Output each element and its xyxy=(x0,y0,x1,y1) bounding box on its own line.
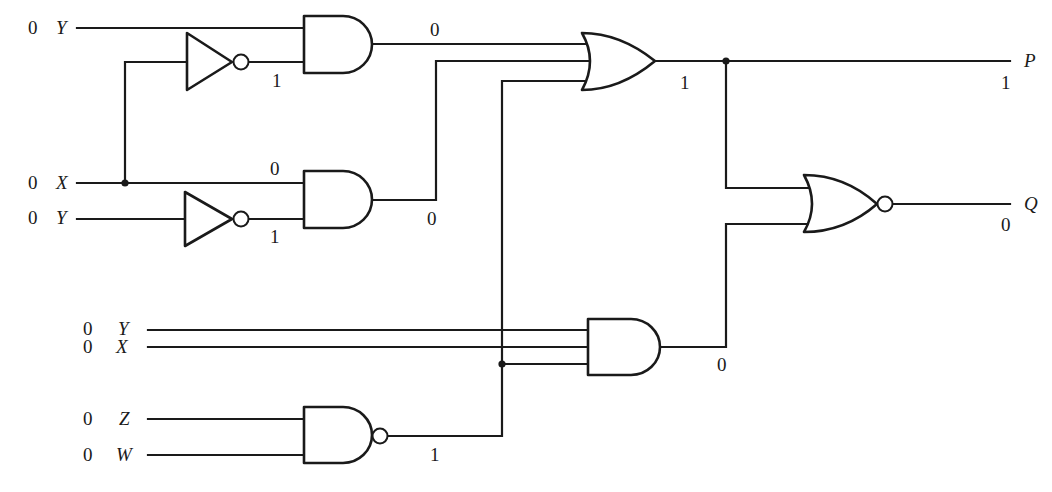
input-value-x-lower: 0 xyxy=(83,337,93,356)
input-name-w: W xyxy=(116,445,132,464)
input-value-y-mid: 0 xyxy=(28,208,38,227)
wires xyxy=(77,28,1010,455)
wire-label-nand1-out: 1 xyxy=(430,445,440,464)
junction-dot-x xyxy=(121,179,128,186)
input-name-x: X xyxy=(56,173,68,192)
not-gate-2 xyxy=(185,192,249,246)
input-name-z: Z xyxy=(119,409,130,428)
input-name-y-top: Y xyxy=(56,18,67,37)
or-gate xyxy=(582,33,655,90)
wire-label-q-value: 0 xyxy=(1001,215,1011,234)
output-name-p: P xyxy=(1024,51,1036,70)
wire-label-and1-out: 0 xyxy=(430,20,440,39)
junction-dot-p xyxy=(722,57,729,64)
input-value-y-top: 0 xyxy=(28,18,38,37)
junction-dot-nand xyxy=(498,360,505,367)
wire-label-p-value: 1 xyxy=(1001,73,1011,92)
not-gate-1 xyxy=(187,33,249,90)
wire-label-and3-out: 0 xyxy=(717,355,727,374)
logic-circuit-diagram xyxy=(0,0,1052,492)
wire-label-or1-out: 1 xyxy=(680,73,690,92)
input-value-w: 0 xyxy=(83,445,93,464)
wire-label-not2-out: 1 xyxy=(270,227,280,246)
nor-gate xyxy=(804,175,893,232)
and-gate-3 xyxy=(588,319,660,375)
input-name-x-lower: X xyxy=(116,337,128,356)
input-name-y-mid: Y xyxy=(56,208,67,227)
nand-gate xyxy=(304,407,388,463)
and-gate-2 xyxy=(304,171,372,228)
input-value-x: 0 xyxy=(28,173,38,192)
and-gate-1 xyxy=(304,16,372,73)
output-name-q: Q xyxy=(1024,194,1038,213)
wire-label-not1-out: 1 xyxy=(272,71,282,90)
wire-label-and2-in-x: 0 xyxy=(270,159,280,178)
input-value-z: 0 xyxy=(83,409,93,428)
wire-label-and2-out: 0 xyxy=(427,209,437,228)
